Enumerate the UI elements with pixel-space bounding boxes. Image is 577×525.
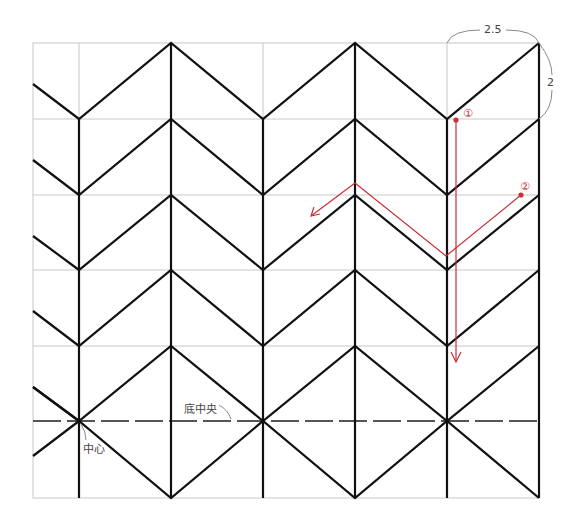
step2-label: ②	[520, 180, 530, 193]
height-dimension-label: 2	[547, 76, 554, 89]
step1-label: ①	[463, 107, 473, 120]
bottom-center-label: 底中央	[184, 400, 217, 416]
step2-dot	[518, 192, 523, 197]
step1-arrow	[451, 120, 461, 362]
width-dimension-label: 2.5	[484, 23, 502, 36]
step1-dot	[453, 117, 458, 122]
center-label: 中心	[83, 440, 105, 456]
